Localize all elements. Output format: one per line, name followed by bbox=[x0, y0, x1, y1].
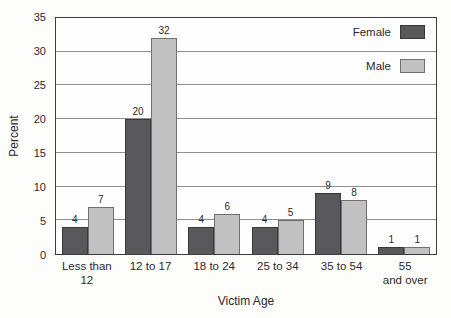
bar-wrap-male-4: 5 bbox=[278, 18, 304, 254]
y-tick-label-5: 5 bbox=[0, 214, 46, 228]
bar-male-3 bbox=[214, 214, 240, 254]
bar-female-1 bbox=[62, 227, 88, 254]
bar-group-2: 2032 bbox=[119, 18, 182, 254]
bar-male-2 bbox=[151, 38, 177, 254]
bar-value-label: 6 bbox=[225, 201, 231, 213]
bar-male-6 bbox=[404, 247, 430, 254]
bar-wrap-female-2: 20 bbox=[125, 18, 151, 254]
x-axis-title: Victim Age bbox=[55, 294, 437, 308]
bar-value-label: 9 bbox=[325, 180, 331, 192]
legend-label-female: Female bbox=[353, 26, 391, 38]
bar-value-label: 7 bbox=[98, 194, 104, 206]
x-tick-label-2: 12 to 17 bbox=[119, 259, 183, 287]
bar-group-1: 47 bbox=[56, 18, 119, 254]
y-tick-label-25: 25 bbox=[0, 78, 46, 92]
bar-value-label: 32 bbox=[158, 25, 169, 37]
legend-swatch-male bbox=[400, 59, 425, 73]
legend-row-female: Female bbox=[353, 25, 425, 39]
bar-group-4: 45 bbox=[246, 18, 309, 254]
x-tick-label-5: 35 to 54 bbox=[310, 259, 374, 287]
bar-wrap-male-2: 32 bbox=[151, 18, 177, 254]
bar-female-2 bbox=[125, 119, 151, 254]
x-axis-tick-labels: Less than 1212 to 1718 to 2425 to 3435 t… bbox=[55, 259, 437, 287]
bar-value-label: 1 bbox=[415, 234, 421, 246]
bar-group-3: 46 bbox=[183, 18, 246, 254]
y-tick-label-15: 15 bbox=[0, 146, 46, 160]
bar-female-4 bbox=[252, 227, 278, 254]
bar-value-label: 4 bbox=[199, 214, 205, 226]
bar-female-6 bbox=[378, 247, 404, 254]
bar-wrap-female-4: 4 bbox=[252, 18, 278, 254]
y-tick-label-0: 0 bbox=[0, 248, 46, 262]
bar-male-4 bbox=[278, 220, 304, 254]
bar-wrap-female-3: 4 bbox=[188, 18, 214, 254]
legend-row-male: Male bbox=[366, 59, 425, 73]
bar-wrap-male-1: 7 bbox=[88, 18, 114, 254]
x-tick-label-4: 25 to 34 bbox=[246, 259, 310, 287]
legend-swatch-female bbox=[400, 25, 425, 39]
x-tick-label-3: 18 to 24 bbox=[182, 259, 246, 287]
y-tick-label-30: 30 bbox=[0, 44, 46, 58]
legend-label-male: Male bbox=[366, 60, 391, 72]
y-tick-label-10: 10 bbox=[0, 180, 46, 194]
bar-wrap-male-3: 6 bbox=[214, 18, 240, 254]
x-tick-label-1: Less than 12 bbox=[55, 259, 119, 287]
bar-female-3 bbox=[188, 227, 214, 254]
bar-value-label: 4 bbox=[262, 214, 268, 226]
legend: FemaleMale bbox=[353, 25, 425, 73]
y-tick-label-20: 20 bbox=[0, 112, 46, 126]
bar-value-label: 8 bbox=[351, 187, 357, 199]
bar-value-label: 5 bbox=[288, 207, 294, 219]
bar-value-label: 1 bbox=[389, 234, 395, 246]
bar-wrap-female-5: 9 bbox=[315, 18, 341, 254]
bar-value-label: 4 bbox=[72, 214, 78, 226]
x-tick-label-6: 55 and over bbox=[373, 259, 437, 287]
y-axis-tick-labels: 05101520253035 bbox=[0, 17, 46, 255]
bar-wrap-female-1: 4 bbox=[62, 18, 88, 254]
y-tick-label-35: 35 bbox=[0, 10, 46, 24]
bar-female-5 bbox=[315, 193, 341, 254]
bar-chart-figure: Percent 05101520253035 47203246459811 Fe… bbox=[0, 0, 451, 318]
bar-value-label: 20 bbox=[132, 106, 143, 118]
bar-male-5 bbox=[341, 200, 367, 254]
bar-male-1 bbox=[88, 207, 114, 254]
